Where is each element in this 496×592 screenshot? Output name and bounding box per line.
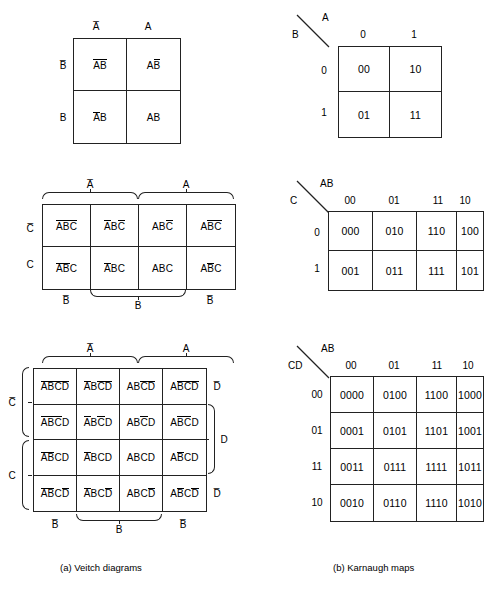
veitch-cell: ABCD [120, 405, 163, 441]
veitch4-bottom-brace-b [76, 514, 162, 521]
karnaugh-cell: 0111 [374, 449, 417, 485]
boolean-literal: ABC [56, 220, 77, 232]
karnaugh4-col-header-2: 11 [432, 360, 442, 371]
karnaugh3-corner-top-label: AB [320, 178, 333, 189]
boolean-literal: ABC [152, 262, 173, 274]
veitch3-bottom-label-0: B̅ [63, 295, 70, 306]
karnaugh-cell: 1100 [417, 377, 457, 413]
veitch4-right-brace-d [208, 404, 215, 474]
karnaugh4-grid: 0000010011001000000101011101100100110111… [330, 376, 484, 522]
veitch4-left-brace-label-0: C̅ [8, 397, 15, 408]
karnaugh-cell: 1010 [457, 485, 483, 521]
karnaugh4-col-header-3: 10 [462, 360, 473, 371]
veitch4-top-brace-0 [42, 356, 138, 363]
karnaugh-cell: 1111 [417, 449, 457, 485]
caption-karnaugh: (b) Karnaugh maps [333, 562, 414, 573]
karnaugh-cell: 0000 [331, 377, 374, 413]
karnaugh3-corner-bottom-label: C [290, 195, 297, 206]
boolean-literal: ABC [200, 220, 221, 232]
karnaugh3-col-header-2: 11 [433, 195, 443, 206]
boolean-literal: AB [147, 111, 161, 123]
karnaugh-cell: 101 [457, 251, 483, 290]
veitch3-grid: ABCABCABCABCABCABCABCABC [42, 204, 236, 290]
karnaugh-cell: 1001 [457, 413, 483, 449]
boolean-literal: ABCD [84, 380, 113, 392]
karnaugh-cell: 001 [329, 251, 373, 290]
karnaugh-cell: 00 [339, 47, 390, 92]
veitch-cell: ABCD [34, 369, 77, 405]
karnaugh-cell: 01 [339, 92, 390, 137]
boolean-literal: ABC [56, 262, 77, 274]
veitch-cell: ABC [187, 205, 235, 247]
veitch4-left-brace-0 [22, 367, 29, 437]
veitch-cell: ABC [43, 205, 91, 247]
veitch3-top-brace-0 [42, 192, 138, 199]
karnaugh3-grid: 000010110100001011111101 [328, 211, 484, 291]
veitch-cell: ABCD [120, 440, 163, 476]
karnaugh-cell: 0100 [374, 377, 417, 413]
veitch-cell: AB [74, 39, 127, 91]
veitch2-col-label-0: A̅ [93, 21, 100, 32]
boolean-literal: ABCD [170, 380, 199, 392]
veitch-cell: ABC [91, 205, 139, 247]
veitch4-bottom-label-2: B̅ [180, 519, 187, 530]
veitch-cell: ABC [43, 247, 91, 289]
boolean-literal: ABCD [170, 487, 199, 499]
veitch-cell: ABCD [163, 440, 206, 476]
veitch4-left-brace-1 [22, 440, 29, 510]
veitch3-row-label-1: C [26, 259, 33, 270]
karnaugh-cell: 011 [373, 251, 417, 290]
veitch-cell: ABCD [77, 405, 120, 441]
karnaugh-cell: 100 [457, 212, 483, 251]
veitch2-row-label-0: B̅ [60, 60, 67, 71]
karnaugh3-col-header-3: 10 [459, 195, 470, 206]
veitch3-row-label-0: C̅ [26, 223, 33, 234]
karnaugh-cell: 110 [417, 212, 457, 251]
veitch3-top-brace-label-0: A̅ [87, 179, 94, 190]
veitch-cell: ABCD [77, 476, 120, 512]
veitch-cell: ABC [139, 205, 187, 247]
veitch-cell: ABC [91, 247, 139, 289]
karnaugh4-col-header-1: 01 [388, 360, 399, 371]
boolean-literal: ABCD [127, 416, 156, 428]
boolean-literal: ABCD [41, 380, 70, 392]
veitch-cell: ABC [187, 247, 235, 289]
karnaugh-cell: 111 [417, 251, 457, 290]
veitch-cell: ABCD [120, 369, 163, 405]
karnaugh2-corner-bottom-label: B [292, 29, 299, 40]
karnaugh-cell: 0101 [374, 413, 417, 449]
veitch4-top-brace-label-1: A [183, 343, 190, 354]
boolean-literal: ABCD [84, 487, 113, 499]
boolean-literal: ABC [200, 262, 221, 274]
karnaugh-cell: 000 [329, 212, 373, 251]
veitch4-right-label-2: D̅ [213, 488, 220, 499]
veitch4-top-brace-1 [138, 356, 234, 363]
boolean-literal: AB [93, 111, 107, 123]
veitch4-right-label-0: D̅ [213, 381, 220, 392]
karnaugh-cell: 0011 [331, 449, 374, 485]
veitch4-bottom-label-0: B̅ [52, 519, 59, 530]
karnaugh4-col-header-0: 00 [345, 360, 356, 371]
veitch3-top-brace-label-1: A [183, 179, 190, 190]
boolean-literal: ABC [104, 220, 125, 232]
veitch4-bottom-label-1: B [116, 524, 123, 535]
karnaugh2-row-header-0: 0 [321, 65, 327, 76]
karnaugh4-row-header-3: 10 [311, 497, 322, 508]
veitch4-top-brace-label-0: A̅ [87, 343, 94, 354]
boolean-literal: AB [147, 59, 161, 71]
veitch-cell: ABCD [77, 369, 120, 405]
veitch-cell: ABCD [163, 405, 206, 441]
karnaugh-cell: 0001 [331, 413, 374, 449]
karnaugh-cell: 010 [373, 212, 417, 251]
boolean-literal: ABCD [41, 451, 70, 463]
caption-veitch: (a) Veitch diagrams [60, 562, 142, 573]
veitch2-col-label-1: A [145, 21, 152, 32]
boolean-literal: ABC [104, 262, 125, 274]
karnaugh-cell: 1110 [417, 485, 457, 521]
veitch-cell: ABCD [163, 476, 206, 512]
veitch-cell: ABCD [34, 476, 77, 512]
boolean-literal: ABCD [41, 416, 70, 428]
veitch-cell: ABCD [120, 476, 163, 512]
boolean-literal: ABCD [84, 416, 113, 428]
boolean-literal: ABCD [127, 451, 156, 463]
